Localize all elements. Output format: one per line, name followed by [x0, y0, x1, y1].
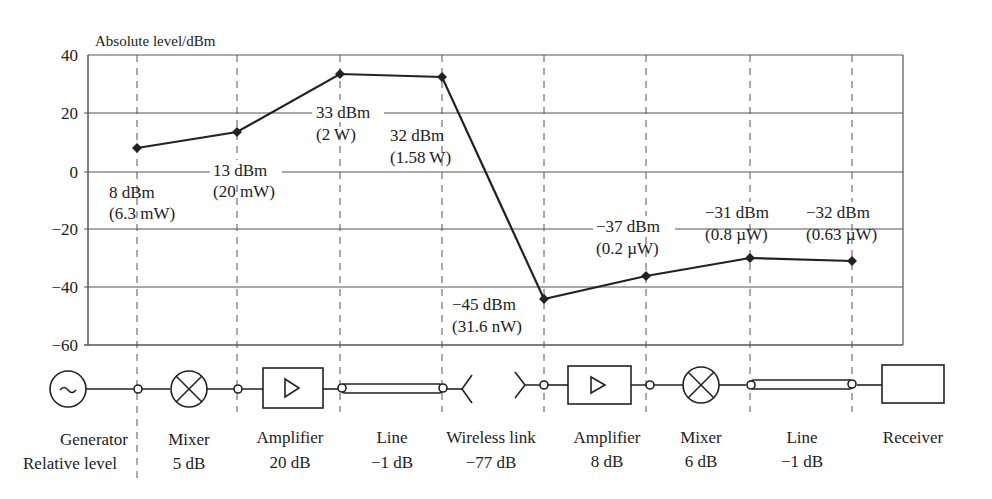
y-tick-40: 40: [61, 46, 78, 65]
receiver-icon: [882, 365, 944, 403]
amplifier-icon: [263, 368, 323, 408]
mixer1-label: Mixer: [168, 430, 210, 449]
annot-8-power: (6.3 mW): [109, 204, 175, 223]
annot-m32-dbm: −32 dBm: [806, 203, 870, 222]
mixer2-gain: 6 dB: [685, 452, 718, 471]
wireless-label: Wireless link: [446, 428, 536, 447]
stage-dividers: [137, 55, 852, 480]
annot-m32-power: (0.63 µW): [806, 225, 877, 244]
marker-7: [745, 253, 755, 263]
y-ticks: 40 20 0 −20 −40 −60: [51, 46, 78, 355]
amp1-gain: 20 dB: [269, 453, 310, 472]
annot-8-dbm: 8 dBm: [109, 183, 155, 202]
amp2-label: Amplifier: [573, 428, 640, 447]
amplifier-triangle-icon: [285, 379, 299, 397]
line2-label: Line: [786, 428, 817, 447]
transmission-line-icon: [341, 384, 443, 393]
annot-m45-power: (31.6 nW): [452, 317, 522, 336]
amp1-label: Amplifier: [256, 428, 323, 447]
transmission-line-icon: [750, 380, 853, 389]
annot-m45-dbm: −45 dBm: [452, 295, 516, 314]
marker-1: [132, 143, 142, 153]
annot-m31-dbm: −31 dBm: [705, 203, 769, 222]
y-tick-20: 20: [61, 104, 78, 123]
annot-m37-dbm: −37 dBm: [596, 217, 660, 236]
node-icon: [134, 385, 142, 393]
annot-m31-power: (0.8 µW): [705, 225, 768, 244]
level-diagram: Absolute level/dBm 40 20 0 −20 −40 −60: [0, 0, 992, 499]
antenna-tx-icon: [462, 375, 472, 403]
mixer2-label: Mixer: [680, 428, 722, 447]
block-labels: Generator Relative level Mixer 5 dB Ampl…: [23, 428, 944, 473]
annot-13-dbm: 13 dBm: [213, 161, 267, 180]
node-icon: [646, 381, 654, 389]
line1-gain: −1 dB: [371, 453, 413, 472]
y-tick-m20: −20: [51, 220, 78, 239]
annot-32-dbm: 32 dBm: [390, 126, 444, 145]
mixer1-gain: 5 dB: [173, 454, 206, 473]
marker-3: [335, 69, 345, 79]
marker-6: [641, 271, 651, 281]
point-annotations: 8 dBm (6.3 mW) 13 dBm (20 mW) 33 dBm (2 …: [109, 103, 877, 336]
annot-13-power: (20 mW): [213, 182, 275, 201]
node-icon: [234, 385, 242, 393]
annot-m37-power: (0.2 µW): [596, 239, 659, 258]
block-diagram: [50, 365, 944, 408]
marker-8: [847, 256, 857, 266]
amplifier-triangle-icon: [591, 377, 605, 393]
amp2-gain: 8 dB: [591, 452, 624, 471]
y-axis-label: Absolute level/dBm: [95, 33, 216, 49]
node-icon: [540, 381, 548, 389]
relative-level-label: Relative level: [23, 454, 117, 473]
annot-33-dbm: 33 dBm: [316, 103, 370, 122]
sine-glyph: [60, 388, 76, 393]
generator-label: Generator: [60, 430, 128, 449]
y-tick-m60: −60: [51, 336, 78, 355]
marker-5: [539, 294, 549, 304]
y-tick-0: 0: [70, 163, 79, 182]
antenna-rx-icon: [515, 372, 540, 398]
amplifier-icon: [568, 366, 631, 404]
line2-gain: −1 dB: [781, 452, 823, 471]
marker-4: [437, 72, 447, 82]
y-tick-m40: −40: [51, 278, 78, 297]
annot-33-power: (2 W): [316, 125, 356, 144]
marker-2: [232, 127, 242, 137]
annot-32-power: (1.58 W): [390, 148, 451, 167]
receiver-label: Receiver: [883, 428, 944, 447]
wireless-gain: −77 dB: [466, 453, 517, 472]
line1-label: Line: [376, 428, 407, 447]
